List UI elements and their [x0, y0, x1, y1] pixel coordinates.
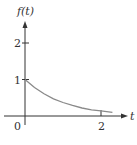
y-axis [23, 21, 28, 125]
y-tick-label: 2 [14, 37, 21, 50]
x-axis-arrow-icon [121, 114, 128, 119]
x-axis-label: t [130, 110, 135, 123]
data-curve [25, 80, 112, 113]
y-axis-label: f(t) [16, 5, 34, 18]
function-plot: 122 f(t) t 0 [0, 0, 137, 145]
origin-label: 0 [14, 120, 21, 133]
x-tick-label: 2 [98, 120, 105, 133]
y-axis-arrow-icon [23, 21, 28, 28]
ticks: 122 [14, 37, 105, 133]
x-axis [4, 114, 128, 119]
y-tick-label: 1 [14, 74, 21, 87]
